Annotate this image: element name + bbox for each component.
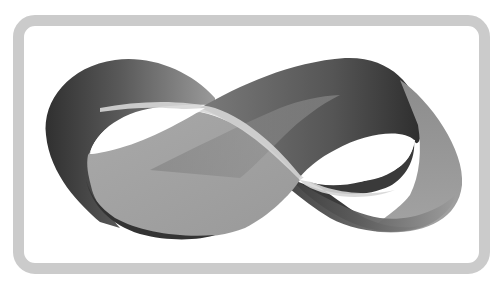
image-canvas: Möbius strip <box>0 0 502 286</box>
mobius-strip-illustration <box>0 0 502 286</box>
